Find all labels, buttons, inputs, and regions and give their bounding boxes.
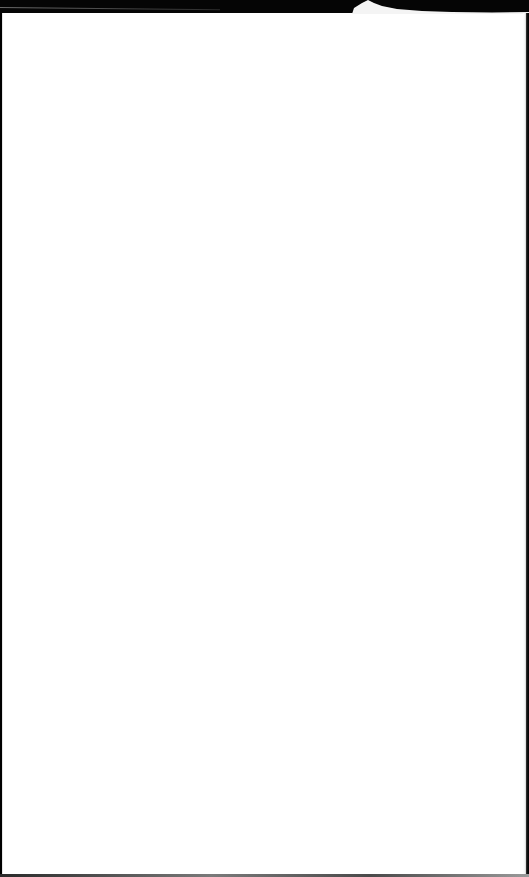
scanned-page-frame xyxy=(0,0,529,877)
torn-paper-edge xyxy=(352,0,529,14)
blank-paper-sheet xyxy=(2,13,524,875)
right-page-edge xyxy=(523,13,529,877)
